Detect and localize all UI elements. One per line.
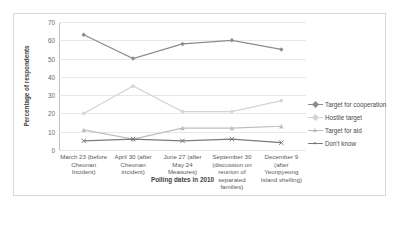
- x-axis-tick-label: March 23 (before Cheonan Incident): [59, 153, 108, 191]
- legend-marker-icon: [308, 126, 323, 135]
- data-point-marker: [279, 98, 283, 102]
- x-axis-tick-label: December 9 (after Yeonpyeong Island shel…: [257, 153, 306, 191]
- series-1: [82, 33, 284, 61]
- data-point-marker: [180, 42, 184, 46]
- series-3: [82, 124, 284, 141]
- series-2: [82, 84, 284, 116]
- data-point-marker: [230, 38, 234, 42]
- data-point-marker: [82, 111, 86, 115]
- y-axis-tick-label: 0: [51, 147, 55, 154]
- legend-item-label: Don't know: [323, 140, 356, 147]
- y-axis-tick-label: 50: [48, 55, 55, 62]
- y-axis-tick-label: 30: [48, 92, 55, 99]
- legend-item-label: Hostile target: [323, 114, 362, 121]
- chart-figure: Percentage of respondents 01020304050607…: [13, 13, 386, 196]
- series-layer: [59, 22, 306, 150]
- chart-legend: Target for cooperationHostile targetTarg…: [308, 98, 396, 150]
- x-axis-title: Polling dates in 2010: [59, 176, 306, 183]
- data-point-marker: [279, 47, 283, 51]
- y-axis-tick-label: 70: [48, 19, 55, 26]
- legend-item-2[interactable]: Hostile target: [308, 111, 396, 124]
- x-axis-tick-labels: March 23 (before Cheonan Incident)April …: [59, 153, 306, 191]
- y-axis-tick-label: 20: [48, 110, 55, 117]
- data-point-marker: [82, 33, 86, 37]
- legend-item-3[interactable]: Target for aid: [308, 124, 396, 137]
- y-axis-title: Percentage of respondents: [21, 22, 33, 150]
- y-axis-tick-label: 40: [48, 73, 55, 80]
- y-axis-tick-label: 10: [48, 128, 55, 135]
- data-point-marker: [230, 109, 234, 113]
- legend-item-1[interactable]: Target for cooperation: [308, 98, 396, 111]
- y-axis-tick-label: 60: [48, 37, 55, 44]
- x-axis-tick-label: April 30 (after Cheonan incident): [108, 153, 157, 191]
- legend-item-label: Target for cooperation: [323, 101, 386, 108]
- gridline: [59, 150, 306, 151]
- x-axis-tick-label: June 27 (after May 24 Measures): [158, 153, 207, 191]
- legend-marker-icon: [308, 100, 323, 109]
- legend-marker-icon: ×: [308, 139, 323, 148]
- legend-marker-icon: [308, 113, 323, 122]
- series-line: [84, 35, 282, 59]
- plot-area: 010203040506070: [59, 22, 306, 150]
- series-4: [82, 137, 284, 145]
- data-point-marker: [131, 56, 135, 60]
- x-axis-tick-label: September 30 (discussion on reunion of s…: [207, 153, 256, 191]
- data-point-marker: [180, 109, 184, 113]
- legend-item-label: Target for aid: [323, 127, 362, 134]
- legend-item-4[interactable]: ×Don't know: [308, 137, 396, 150]
- series-line: [84, 86, 282, 113]
